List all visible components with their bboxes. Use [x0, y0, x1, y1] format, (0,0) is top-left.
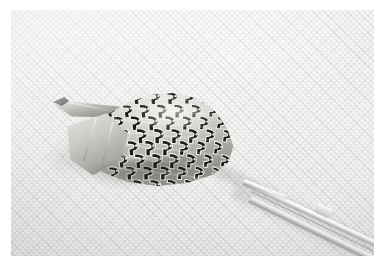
photo-vignette: [11, 10, 374, 256]
photograph: Close-up photograph of a small cone-shap…: [11, 10, 374, 256]
photo-frame: Close-up photograph of a small cone-shap…: [0, 0, 385, 267]
